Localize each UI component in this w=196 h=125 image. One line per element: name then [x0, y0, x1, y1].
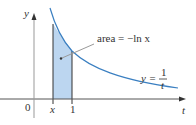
y-axis-arrow-icon — [32, 13, 37, 20]
tick-label-1: 1 — [70, 103, 76, 115]
area-annotation-expression: −ln x — [127, 32, 151, 44]
x-axis-arrow-icon — [179, 97, 186, 102]
shaded-area-region — [53, 24, 72, 99]
x-axis-label: t — [182, 104, 186, 116]
area-annotation-prefix: area = — [97, 32, 127, 44]
area-annotation: area = −ln x — [97, 32, 151, 44]
tick-label-x: x — [49, 103, 55, 115]
annotation-pointer-dot — [60, 57, 62, 59]
diagram-canvas: y t 0 x 1 area = −ln x y = 1 t — [0, 0, 196, 125]
y-axis-label: y — [23, 7, 29, 19]
curve-label-lhs: y = — [140, 72, 156, 84]
curve-label-denominator: t — [161, 79, 165, 91]
origin-label: 0 — [25, 101, 31, 113]
curve-label-numerator: 1 — [161, 66, 167, 78]
